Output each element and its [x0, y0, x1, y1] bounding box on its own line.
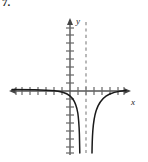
- y-axis-label: y: [75, 16, 80, 26]
- y-axis-up-arrowhead: [67, 18, 73, 25]
- figure-container: 7.: [0, 0, 148, 162]
- curve-right-branch: [92, 91, 126, 153]
- x-axis-label: x: [130, 97, 135, 107]
- graph-plot: y x: [0, 0, 148, 162]
- y-axis: [66, 18, 74, 155]
